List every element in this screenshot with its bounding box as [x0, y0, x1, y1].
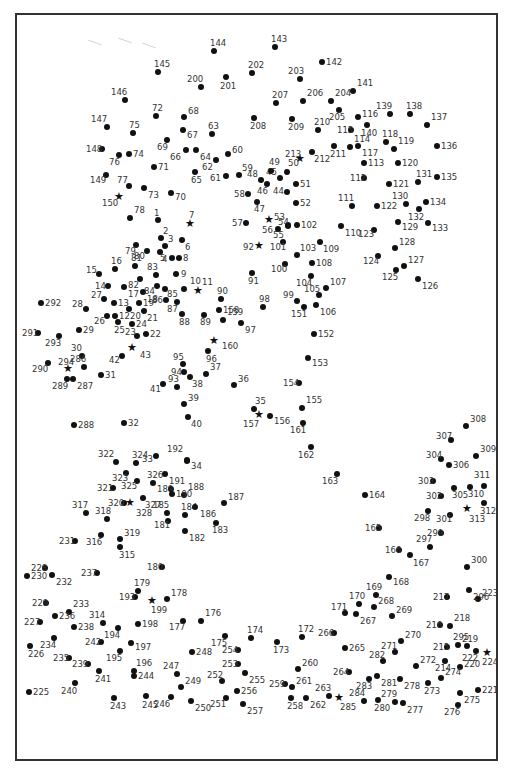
dot-point[interactable] [153, 113, 159, 119]
dot-point[interactable] [24, 573, 30, 579]
dot-point[interactable] [163, 297, 169, 303]
dot-point[interactable] [83, 306, 89, 312]
dot-point[interactable] [81, 364, 87, 370]
dot-point[interactable] [389, 613, 395, 619]
dot-point[interactable] [371, 604, 377, 610]
dot-point[interactable] [285, 223, 291, 229]
dot-point[interactable] [98, 372, 104, 378]
dot-point[interactable] [289, 684, 295, 690]
dot-point[interactable] [49, 572, 55, 578]
dot-point[interactable] [141, 185, 147, 191]
dot-point[interactable] [395, 219, 401, 225]
dot-point[interactable] [117, 536, 123, 542]
dot-point[interactable] [121, 284, 127, 290]
dot-point[interactable] [361, 698, 367, 704]
dot-point[interactable] [457, 690, 463, 696]
dot-point[interactable] [133, 460, 139, 466]
dot-point[interactable] [275, 226, 281, 232]
dot-point[interactable] [234, 688, 240, 694]
dot-point[interactable] [164, 510, 170, 516]
dot-point[interactable] [70, 376, 76, 382]
dot-point[interactable] [135, 621, 141, 627]
dot-point[interactable] [297, 76, 303, 82]
dot-point[interactable] [464, 564, 470, 570]
dot-point[interactable] [319, 59, 325, 65]
dot-point[interactable] [151, 164, 157, 170]
dot-point[interactable] [155, 69, 161, 75]
dot-point[interactable] [38, 300, 44, 306]
dot-point[interactable] [374, 203, 380, 209]
dot-point[interactable] [397, 676, 403, 682]
dot-point[interactable] [174, 671, 180, 677]
dot-point[interactable] [463, 423, 469, 429]
dot-point[interactable] [342, 645, 348, 651]
dot-point[interactable] [248, 635, 254, 641]
dot-point[interactable] [223, 173, 229, 179]
dot-point[interactable] [391, 146, 397, 152]
dot-point[interactable] [386, 181, 392, 187]
dot-point[interactable] [403, 201, 409, 207]
dot-point[interactable] [143, 693, 149, 699]
dot-point[interactable] [272, 44, 278, 50]
dot-point[interactable] [203, 371, 209, 377]
dot-point[interactable] [182, 528, 188, 534]
dot-point[interactable] [434, 143, 440, 149]
dot-point[interactable] [464, 643, 470, 649]
dot-point[interactable] [284, 189, 290, 195]
dot-point[interactable] [176, 255, 182, 261]
dot-point[interactable] [181, 286, 187, 292]
dot-point[interactable] [164, 596, 170, 602]
dot-point[interactable] [189, 649, 195, 655]
dot-point[interactable] [326, 693, 332, 699]
dot-point[interactable] [26, 689, 32, 695]
star-point-icon[interactable]: ★ [127, 342, 137, 354]
dot-point[interactable] [311, 331, 317, 337]
dot-point[interactable] [315, 127, 321, 133]
dot-point[interactable] [299, 405, 305, 411]
dot-point[interactable] [260, 304, 266, 310]
dot-point[interactable] [192, 504, 198, 510]
dot-point[interactable] [144, 248, 150, 254]
dot-point[interactable] [184, 457, 190, 463]
dot-point[interactable] [374, 673, 380, 679]
dot-point[interactable] [96, 271, 102, 277]
dot-point[interactable] [71, 422, 77, 428]
dot-point[interactable] [392, 245, 398, 251]
dot-point[interactable] [193, 147, 199, 153]
dot-point[interactable] [126, 151, 132, 157]
dot-point[interactable] [323, 285, 329, 291]
dot-point[interactable] [174, 384, 180, 390]
dot-point[interactable] [303, 695, 309, 701]
dot-point[interactable] [169, 491, 175, 497]
dot-point[interactable] [132, 263, 138, 269]
dot-point[interactable] [273, 100, 279, 106]
dot-point[interactable] [277, 175, 283, 181]
dot-point[interactable] [71, 624, 77, 630]
dot-point[interactable] [392, 699, 398, 705]
dot-point[interactable] [328, 98, 334, 104]
dot-point[interactable] [213, 157, 219, 163]
dot-point[interactable] [268, 168, 274, 174]
dot-point[interactable] [249, 70, 255, 76]
dot-point[interactable] [305, 355, 311, 361]
dot-point[interactable] [83, 510, 89, 516]
dot-point[interactable] [198, 84, 204, 90]
dot-point[interactable] [143, 331, 149, 337]
dot-point[interactable] [294, 298, 300, 304]
dot-point[interactable] [238, 320, 244, 326]
dot-point[interactable] [100, 620, 106, 626]
star-point-icon[interactable]: ★ [254, 240, 264, 252]
dot-point[interactable] [104, 124, 110, 130]
dot-point[interactable] [216, 307, 222, 313]
dot-point[interactable] [240, 701, 246, 707]
dot-point[interactable] [267, 413, 273, 419]
dot-point[interactable] [160, 381, 166, 387]
dot-point[interactable] [355, 114, 361, 120]
dot-point[interactable] [353, 611, 359, 617]
dot-point[interactable] [104, 313, 110, 319]
dot-point[interactable] [128, 640, 134, 646]
dot-point[interactable] [424, 122, 430, 128]
star-point-icon[interactable]: ★ [125, 497, 135, 509]
dot-point[interactable] [119, 353, 125, 359]
dot-point[interactable] [153, 453, 159, 459]
